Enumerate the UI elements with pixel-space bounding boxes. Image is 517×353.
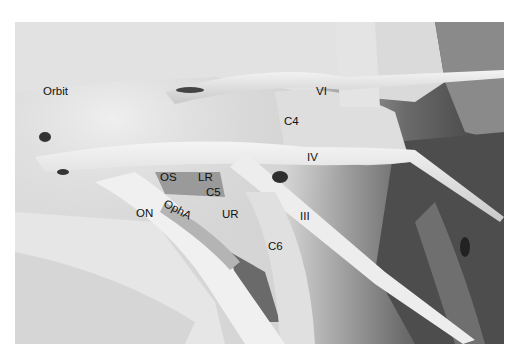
label-orbit: Orbit	[43, 86, 68, 98]
label-carotid-c5: C5	[206, 187, 221, 199]
label-trochlear-nerve-iv: IV	[307, 152, 318, 164]
label-optic-nerve-on: ON	[136, 208, 153, 220]
label-oculomotor-nerve-iii: III	[300, 211, 310, 223]
label-carotid-c4: C4	[284, 116, 299, 128]
label-carotid-c6: C6	[268, 241, 283, 253]
label-abducens-nerve-vi: VI	[316, 86, 327, 98]
label-optic-strut-os: OS	[160, 172, 177, 184]
label-lr: LR	[198, 172, 213, 184]
label-ur: UR	[222, 209, 239, 221]
dissection-photo	[15, 22, 504, 344]
anatomy-illustration	[15, 22, 504, 344]
